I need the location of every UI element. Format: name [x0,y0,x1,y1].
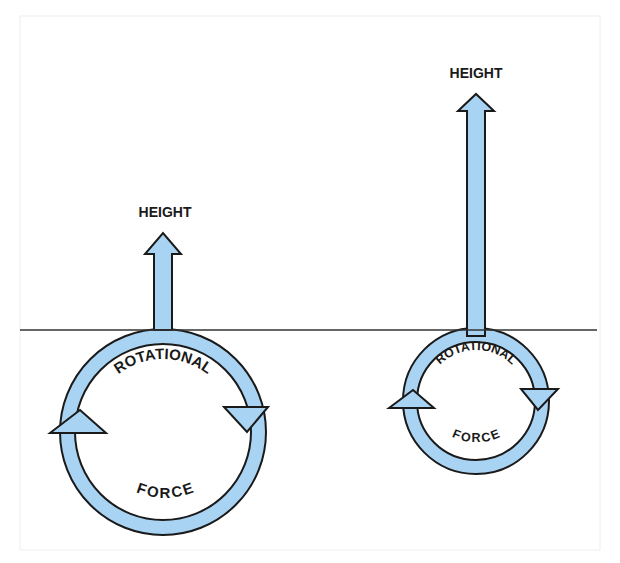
diagram-canvas: HEIGHT ROTATIONAL FORCE HEIGHT ROTATIONA… [0,0,620,563]
right-force-label-text: FORCE [450,427,501,446]
right-ring-arrowhead-down-icon [521,389,558,410]
right-height-arrow-icon [458,94,494,336]
left-force-label-text: FORCE [135,479,195,501]
left-force-label: FORCE [135,479,195,501]
left-height-label: HEIGHT [139,204,192,220]
left-ring-arrowhead-up-icon [50,410,106,433]
right-height-label: HEIGHT [450,65,503,81]
left-height-arrow-icon [145,233,181,330]
right-ring-arrowhead-up-icon [389,390,434,408]
right-force-label: FORCE [450,427,501,446]
right-rotation-ring [410,335,542,467]
right-figure: HEIGHT ROTATIONAL FORCE [389,65,558,467]
figure-frame [20,16,600,550]
left-figure: HEIGHT ROTATIONAL FORCE [50,204,268,528]
rotational-force-diagram: HEIGHT ROTATIONAL FORCE HEIGHT ROTATIONA… [0,0,620,563]
